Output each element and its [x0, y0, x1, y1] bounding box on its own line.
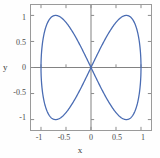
x-tick-label-0p5: 0.5	[105, 134, 129, 142]
y-axis-title: y	[3, 63, 8, 72]
y-tick-label-m0p5: -0.5	[4, 89, 26, 97]
x-tick-label-0: 0	[79, 134, 103, 142]
x-axis-title: x	[0, 146, 160, 155]
plot-area	[30, 4, 152, 131]
chart-figure: 1 0.5 0 -0.5 -1 -1 -0.5 0 0.5 1 y x	[0, 0, 160, 158]
x-tick-label-1: 1	[131, 134, 155, 142]
y-tick-label-0p5: 0.5	[4, 39, 26, 47]
x-tick-label-m0p5: -0.5	[52, 134, 76, 142]
y-tick-label-1: 1	[4, 14, 26, 22]
plot-svg	[31, 5, 151, 130]
x-tick-label-m1: -1	[27, 134, 51, 142]
y-tick-label-m1: -1	[4, 114, 26, 122]
